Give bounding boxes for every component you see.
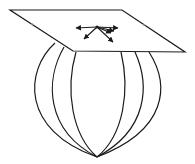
tangent-point bbox=[96, 26, 99, 29]
tangent-plane-diagram bbox=[0, 0, 195, 164]
sphere-meridian-outer-left bbox=[35, 43, 97, 157]
sphere-meridian-outer-right bbox=[97, 52, 161, 157]
tangent-plane bbox=[10, 10, 185, 52]
sphere-meridian-inner-right bbox=[97, 52, 125, 157]
sphere-meridian-mid-left bbox=[52, 47, 97, 157]
sphere bbox=[35, 43, 161, 157]
sphere-meridian-mid-right bbox=[97, 52, 143, 157]
diagram-svg bbox=[0, 0, 195, 164]
